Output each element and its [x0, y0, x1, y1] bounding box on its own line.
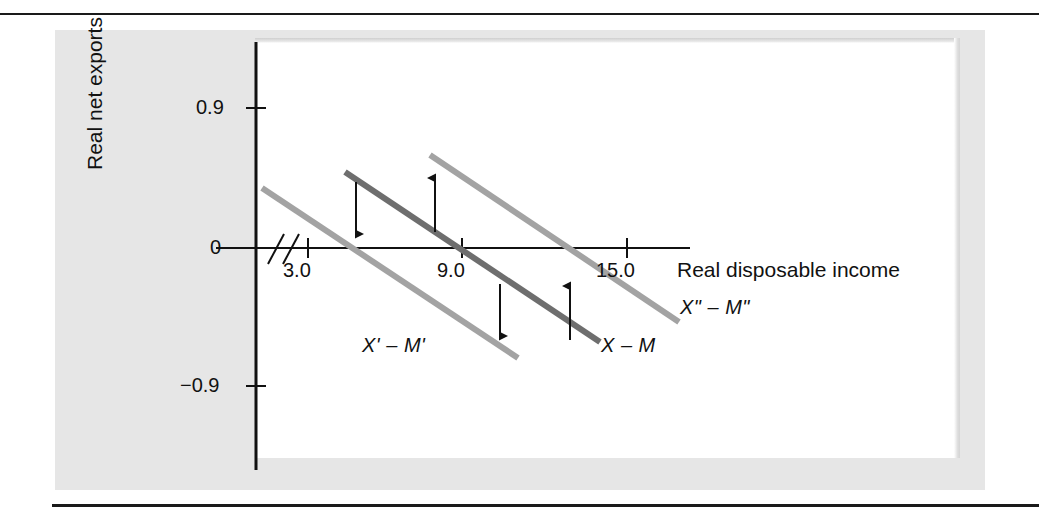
bottom-divider-rule [52, 504, 1039, 507]
curve-label-x-dprime-m-dprime: X" – M" [680, 296, 750, 319]
y-tick-label-neg0.9: −0.9 [180, 374, 219, 397]
x-tick-label-3.0: 3.0 [283, 259, 311, 282]
curve-label-x-m: X – M [601, 334, 656, 357]
curve-x-dprime-m-dprime [430, 155, 679, 322]
x-tick-label-9.0: 9.0 [437, 259, 465, 282]
y-tick-label-0: 0 [210, 236, 221, 259]
x-tick-label-15.0: 15.0 [596, 259, 635, 282]
y-axis-title: Real net exports [83, 17, 107, 170]
y-tick-label-0.9: 0.9 [196, 96, 224, 119]
curve-label-x-prime-m-prime: X' – M' [362, 334, 425, 357]
x-axis-title: Real disposable income [677, 258, 900, 282]
curve-x-m [345, 172, 600, 342]
